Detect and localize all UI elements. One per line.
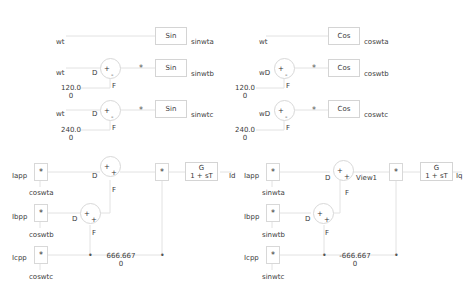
plus-sign: + [337,168,343,175]
wires [0,0,472,296]
gain-value: -666.667 [336,252,374,260]
sum-block-sin-b[interactable]: + - [100,58,121,79]
sum2-d-label-q: D [305,215,310,223]
plus-sign: + [104,108,110,115]
input-label-ibpp-q: Ibpp [244,213,259,221]
tf-denominator: 1 + sT [190,172,213,180]
plus-sign: + [104,66,110,73]
output-label-sinwta: sinwta [191,38,214,46]
plus-sign: + [278,108,284,115]
constant-240-cos[interactable]: 240.0 0 [232,126,258,142]
minus-sign: - [111,114,114,121]
minus-sign: - [285,114,288,121]
constant-sub: 0 [58,92,84,100]
junction-dot: * [312,65,316,73]
sum-f-label-c: F [112,124,116,132]
transfer-function-block-id[interactable]: G 1 + sT [185,162,218,181]
plus-sign: + [91,217,97,224]
sum-f-label-cos-c: F [286,124,290,132]
output-label-coswtc: coswtc [364,111,388,119]
plus-sign: + [104,164,110,171]
output-label-iq: Iq [456,172,463,180]
input-label-wt-c: wt [56,110,64,118]
input-label-wd-c: wD [259,110,270,118]
sum2-f-label-q: F [325,229,329,237]
junction-dot: • [88,252,93,260]
constant-120[interactable]: 120.0 0 [58,84,84,100]
junction-dot: * [139,107,143,115]
sum-block-iq-2[interactable]: + + [313,203,334,224]
multiplier-block-c[interactable]: * [34,246,48,264]
constant-value: 120.0 [58,84,84,92]
sum2-d-label: D [72,215,77,223]
input-label-wt-cos-a: wt [259,38,267,46]
constant-120-cos[interactable]: 120.0 0 [232,84,258,100]
sum-block-cos-b[interactable]: + - [274,58,295,79]
constant-240[interactable]: 240.0 0 [58,126,84,142]
sum2-f-label: F [92,229,96,237]
label-sinwta: sinwta [262,189,285,197]
label-coswta: coswta [29,189,54,197]
gain-constant-id[interactable]: 666.667 0 [104,252,138,268]
plus-sign: + [111,170,117,177]
input-label-iapp-q: Iapp [244,172,259,180]
label-sinwtb: sinwtb [262,231,285,239]
constant-value: 240.0 [232,126,258,134]
gain-value: 666.667 [104,252,138,260]
sum-d-label-c: D [92,110,97,118]
sum-f-label-b: F [112,82,116,90]
constant-sub: 0 [232,92,258,100]
tf-numerator: G [434,164,439,172]
sin-block-b[interactable]: Sin [155,59,187,77]
sum-block-iq-1[interactable]: + + [333,160,354,181]
multiplier-block-q-a[interactable]: * [266,163,280,181]
tf-numerator: G [199,164,204,172]
cos-block-c[interactable]: Cos [328,100,360,118]
plus-sign: + [278,66,284,73]
constant-sub: 0 [232,134,258,142]
sum-block-sin-c[interactable]: + - [100,100,121,121]
sin-block-a[interactable]: Sin [155,27,187,45]
output-label-sinwtb: sinwtb [191,70,214,78]
multiplier-block-b[interactable]: * [34,204,48,222]
input-label-iapp: Iapp [12,172,27,180]
sum-block-cos-c[interactable]: + - [274,100,295,121]
output-label-coswta: coswta [364,38,389,46]
label-coswtc: coswtc [29,273,53,281]
sum1-f-label-q: F [345,189,349,197]
constant-value: 120.0 [232,84,258,92]
sum-d-label-b: D [92,69,97,77]
output-label-coswtb: coswtb [364,70,389,78]
junction-dot: * [312,107,316,115]
multiplier-block-q-c[interactable]: * [266,246,280,264]
plus-sign: + [324,217,330,224]
cos-block-a[interactable]: Cos [328,27,360,45]
output-label-sinwtc: sinwtc [191,111,213,119]
sin-block-c[interactable]: Sin [155,100,187,118]
sum1-d-label-q: D [325,174,330,182]
input-label-icpp: Icpp [12,254,27,262]
multiplier-block-id[interactable]: * [155,163,169,181]
sum-block-id-1[interactable]: + + [100,156,121,177]
tf-denominator: 1 + sT [425,172,448,180]
gain-constant-iq[interactable]: -666.667 0 [336,252,374,268]
input-label-wd-b: wD [259,69,270,77]
cos-block-b[interactable]: Cos [328,59,360,77]
input-label-wt-a: wt [56,38,64,46]
minus-sign: - [285,72,288,79]
gain-sub: 0 [336,260,374,268]
label-sinwtc: sinwtc [262,273,284,281]
junction-dot: • [160,252,165,260]
transfer-function-block-iq[interactable]: G 1 + sT [420,162,453,181]
sum1-d-label: D [92,172,97,180]
junction-dot: • [322,252,327,260]
constant-sub: 0 [58,134,84,142]
view1-label[interactable]: View1 [356,174,377,182]
multiplier-block-q-b[interactable]: * [266,204,280,222]
output-label-id: Id [229,172,236,180]
sum-block-id-2[interactable]: + + [80,203,101,224]
minus-sign: - [111,72,114,79]
junction-dot: * [139,65,143,73]
multiplier-block-a[interactable]: * [34,163,48,181]
multiplier-block-iq[interactable]: * [389,163,403,181]
